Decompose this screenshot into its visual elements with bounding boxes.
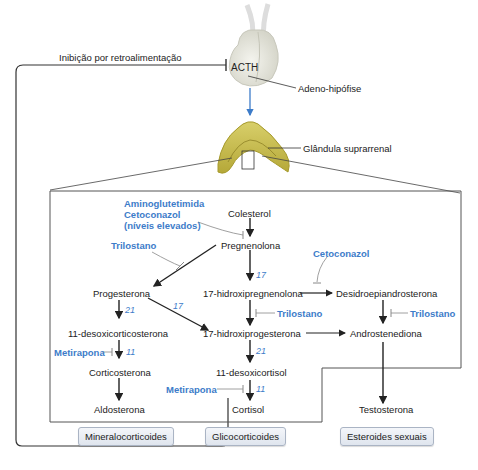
category-mineralocorticoides: Mineralocorticoides xyxy=(78,427,174,446)
steroid-pregnenolona: Pregnenolona xyxy=(221,240,280,251)
inhibitor-metirapona-left: Metirapona xyxy=(54,347,105,358)
steroid-17-hidroxiprogesterona: 17-hidroxiprogesterona xyxy=(203,328,301,339)
steroid-11-desoxicorticosterona: 11-desoxicorticosterona xyxy=(68,328,168,339)
category-glicocorticoides: Glicocorticoides xyxy=(205,427,286,446)
category-esteroides-sexuais: Esteroides sexuais xyxy=(340,427,434,446)
drug-cetoconazol-high: Cetoconazol xyxy=(124,209,204,220)
steroid-11-desoxicortisol: 11-desoxicortisol xyxy=(216,367,287,378)
inhibitor-cetoconazol: Cetoconazol xyxy=(313,248,369,259)
zoom-line-left xyxy=(50,158,232,190)
inhibitor-aminoglutetimida: Aminoglutetimida Cetoconazol (níveis ele… xyxy=(124,198,204,231)
steroid-desidroepiandrosterona: Desidroepiandrosterona xyxy=(336,288,437,299)
steroid-progesterona: Progesterona xyxy=(93,288,150,299)
pituitary-gland-illustration xyxy=(229,4,278,86)
inhibitor-trilostano-right: Trilostano xyxy=(410,308,455,319)
enzyme-17-top: 17 xyxy=(256,270,266,280)
drug-aminoglutetimida: Aminoglutetimida xyxy=(124,198,204,209)
acth-label: ACTH xyxy=(231,62,258,73)
glandula-suprarrenal-label: Glândula suprarrenal xyxy=(303,143,392,154)
steroid-cortisol: Cortisol xyxy=(232,404,264,415)
steroid-testosterona: Testosterona xyxy=(359,404,413,415)
steroid-androstenediona: Androstenediona xyxy=(350,328,422,339)
steroid-corticosterona: Corticosterona xyxy=(89,367,151,378)
enzyme-21-mid: 21 xyxy=(256,346,266,356)
zoom-line-right xyxy=(262,156,460,193)
adrenal-gland-illustration xyxy=(218,122,289,173)
enzyme-11-mid: 11 xyxy=(256,384,265,394)
steroid-17-hidroxipregnenolona: 17-hidroxipregnenolona xyxy=(203,288,303,299)
drug-note-niveis-elevados: (níveis elevados) xyxy=(124,220,204,231)
inhibitor-trilostano-mid: Trilostano xyxy=(277,308,322,319)
enzyme-11-left: 11 xyxy=(126,347,135,357)
steroid-colesterol: Colesterol xyxy=(228,208,271,219)
adeno-hipofise-label: Adeno-hipófise xyxy=(298,83,361,94)
feedback-label: Inibição por retroalimentação xyxy=(59,52,182,63)
enzyme-21-left: 21 xyxy=(125,305,135,315)
enzyme-17-diag: 17 xyxy=(173,301,183,311)
steroid-aldosterona: Aldosterona xyxy=(94,404,145,415)
inhibitor-trilostano-top: Trilostano xyxy=(111,240,156,251)
inhibitor-metirapona-mid: Metirapona xyxy=(166,384,217,395)
